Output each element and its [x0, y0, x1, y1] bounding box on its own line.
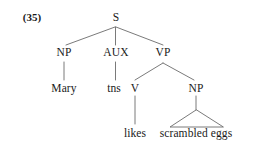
np-object-triangle: [170, 110, 223, 127]
example-number: (35): [23, 12, 42, 23]
branch-vp-to-np-object: [163, 63, 194, 80]
node-s: S: [113, 12, 120, 24]
terminal-tns: tns: [107, 83, 121, 95]
branch-s-to-np: [66, 27, 115, 45]
terminal-scrambled-eggs: scrambled eggs: [160, 128, 233, 140]
terminal-likes: likes: [124, 128, 146, 140]
node-np-object: NP: [188, 83, 203, 95]
terminal-mary: Mary: [51, 83, 76, 95]
node-vp: VP: [155, 47, 170, 59]
branch-vp-to-v: [135, 63, 163, 80]
branch-s-to-vp: [116, 27, 163, 45]
node-np-subject: NP: [56, 47, 71, 59]
node-v: V: [131, 83, 140, 95]
syntax-tree-figure: (35) S NP AUX VP Mary tns V NP likes scr…: [0, 0, 264, 154]
node-aux: AUX: [103, 47, 129, 59]
